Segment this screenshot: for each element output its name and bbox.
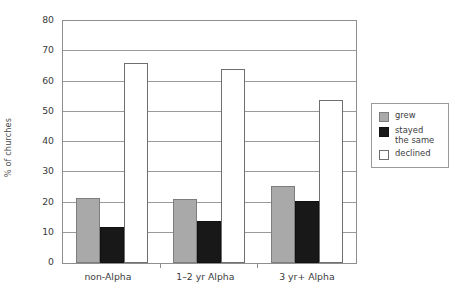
bar-group — [173, 21, 245, 263]
legend-item-label: grew — [395, 111, 416, 121]
x-axis-label: non-Alpha — [84, 271, 131, 287]
bar-groups — [63, 21, 356, 263]
legend-item[interactable]: stayed the same — [379, 126, 448, 145]
y-axis-tick-label: 10 — [22, 226, 54, 238]
y-axis-title: % of churches — [0, 0, 16, 295]
y-axis-tick-label: 20 — [22, 196, 54, 208]
legend-swatch-icon — [379, 150, 389, 160]
x-axis-tick — [257, 263, 258, 268]
chart-legend: grewstayed the samedeclined — [371, 103, 449, 168]
y-axis-tick-label: 50 — [22, 105, 54, 117]
legend-item-label: stayed the same — [395, 126, 434, 145]
plot-area — [62, 20, 357, 264]
bar[interactable] — [100, 227, 124, 263]
legend-item[interactable]: grew — [379, 111, 448, 122]
bar[interactable] — [271, 186, 295, 263]
bar[interactable] — [124, 63, 148, 263]
y-axis-tick-label: 80 — [22, 14, 54, 26]
x-axis-ticks — [62, 263, 357, 269]
bar[interactable] — [173, 199, 197, 263]
bar[interactable] — [76, 198, 100, 263]
bar[interactable] — [319, 100, 343, 263]
x-axis-tick — [160, 263, 161, 268]
bar[interactable] — [295, 201, 319, 263]
y-axis-tick-label: 40 — [22, 135, 54, 147]
y-axis-tick-label: 70 — [22, 44, 54, 56]
x-axis-labels: non-Alpha1–2 yr Alpha3 yr+ Alpha — [62, 271, 357, 287]
bar-group — [271, 21, 343, 263]
bar[interactable] — [221, 69, 245, 263]
bar-group — [76, 21, 148, 263]
bar[interactable] — [197, 221, 221, 263]
legend-swatch-icon — [379, 112, 389, 122]
x-axis-label: 1–2 yr Alpha — [176, 271, 234, 287]
x-axis-label: 3 yr+ Alpha — [279, 271, 334, 287]
bar-chart: % of churches 80706050403020100 non-Alph… — [0, 0, 455, 295]
legend-swatch-icon — [379, 127, 389, 137]
y-axis-tick-label: 60 — [22, 75, 54, 87]
legend-item[interactable]: declined — [379, 149, 448, 160]
y-axis-tick-labels: 80706050403020100 — [22, 14, 54, 264]
y-axis-tick-label: 30 — [22, 165, 54, 177]
y-axis-tick-label: 0 — [22, 256, 54, 268]
legend-item-label: declined — [395, 149, 431, 159]
